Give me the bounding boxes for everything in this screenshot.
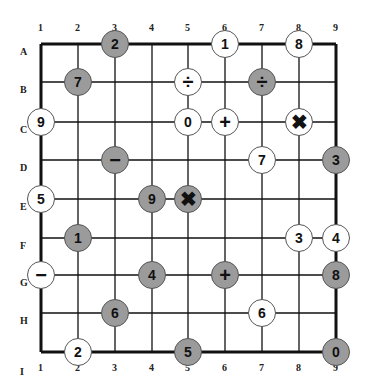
node-value: 7 xyxy=(74,74,82,90)
multiply-icon: ✖ xyxy=(291,112,308,132)
divide-icon: ÷ xyxy=(257,72,268,92)
node-G9: 8 xyxy=(322,261,350,289)
node-value: 1 xyxy=(74,230,82,246)
node-value: 1 xyxy=(221,36,229,52)
node-value: 4 xyxy=(148,267,156,283)
node-value: 8 xyxy=(295,36,303,52)
row-label: A xyxy=(20,46,27,57)
node-B7: ÷ xyxy=(248,68,276,96)
column-label-top: 5 xyxy=(185,22,190,33)
minus-icon: − xyxy=(35,265,47,285)
row-label: I xyxy=(20,366,24,377)
node-C5: 0 xyxy=(174,108,202,136)
node-I5: 5 xyxy=(174,338,202,366)
node-value: 0 xyxy=(184,114,192,130)
node-value: 2 xyxy=(74,344,82,360)
node-D3: − xyxy=(101,146,129,174)
column-label-bottom: 7 xyxy=(259,362,264,373)
plus-icon: + xyxy=(219,112,231,132)
node-H7: 6 xyxy=(248,299,276,327)
node-B2: 7 xyxy=(64,68,92,96)
node-value: 4 xyxy=(332,230,340,246)
node-D9: 3 xyxy=(322,146,350,174)
node-F9: 4 xyxy=(322,224,350,252)
node-value: 2 xyxy=(111,36,119,52)
node-A3: 2 xyxy=(101,30,129,58)
node-value: 8 xyxy=(332,267,340,283)
node-B5: ÷ xyxy=(174,68,202,96)
node-value: 0 xyxy=(332,344,340,360)
column-label-bottom: 4 xyxy=(149,362,154,373)
row-label: C xyxy=(20,124,27,135)
node-A8: 8 xyxy=(285,30,313,58)
row-label: D xyxy=(20,162,27,173)
node-value: 7 xyxy=(258,152,266,168)
node-value: 5 xyxy=(184,344,192,360)
node-E4: 9 xyxy=(138,185,166,213)
row-label: B xyxy=(20,84,27,95)
node-value: 6 xyxy=(111,305,119,321)
node-G6: + xyxy=(211,261,239,289)
node-G4: 4 xyxy=(138,261,166,289)
node-D7: 7 xyxy=(248,146,276,174)
row-label: H xyxy=(20,315,28,326)
row-label: E xyxy=(20,201,27,212)
node-E1: 5 xyxy=(27,185,55,213)
node-G1: − xyxy=(27,261,55,289)
column-label-bottom: 8 xyxy=(296,362,301,373)
column-label-top: 4 xyxy=(149,22,154,33)
column-label-top: 9 xyxy=(333,22,338,33)
column-label-bottom: 1 xyxy=(38,362,43,373)
node-value: 5 xyxy=(37,191,45,207)
node-E5: ✖ xyxy=(174,185,202,213)
node-C8: ✖ xyxy=(285,108,313,136)
node-F8: 3 xyxy=(285,224,313,252)
node-value: 9 xyxy=(37,114,45,130)
node-H3: 6 xyxy=(101,299,129,327)
node-value: 3 xyxy=(332,152,340,168)
multiply-icon: ✖ xyxy=(180,189,197,209)
node-F2: 1 xyxy=(64,224,92,252)
plus-icon: + xyxy=(219,265,231,285)
node-I2: 2 xyxy=(64,338,92,366)
column-label-top: 1 xyxy=(38,22,43,33)
node-C6: + xyxy=(211,108,239,136)
node-C1: 9 xyxy=(27,108,55,136)
column-label-top: 7 xyxy=(259,22,264,33)
node-value: 3 xyxy=(295,230,303,246)
node-A6: 1 xyxy=(211,30,239,58)
minus-icon: − xyxy=(109,150,121,170)
puzzle-board: 123456789123456789ABCDEFGHI 2187÷÷90+✖−7… xyxy=(0,0,371,386)
column-label-bottom: 3 xyxy=(112,362,117,373)
node-I9: 0 xyxy=(322,338,350,366)
divide-icon: ÷ xyxy=(183,72,194,92)
node-value: 6 xyxy=(258,305,266,321)
row-label: F xyxy=(20,240,26,251)
node-value: 9 xyxy=(148,191,156,207)
column-label-top: 2 xyxy=(75,22,80,33)
column-label-bottom: 6 xyxy=(222,362,227,373)
